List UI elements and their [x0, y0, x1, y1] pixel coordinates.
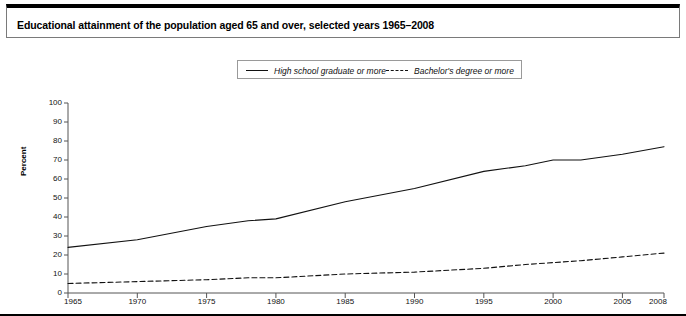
y-tick-label: 100	[40, 98, 62, 107]
y-tick-label: 60	[40, 174, 62, 183]
y-tick-label: 0	[40, 288, 62, 297]
x-tick-label: 2005	[614, 297, 632, 306]
x-tick-label: 2000	[544, 297, 562, 306]
y-axis-label: Percent	[19, 147, 28, 176]
x-tick-label: 1980	[267, 297, 285, 306]
y-tick-label: 40	[40, 212, 62, 221]
y-tick-label: 70	[40, 155, 62, 164]
y-tick-label: 20	[40, 250, 62, 259]
y-tick-label: 10	[40, 269, 62, 278]
x-tick-label: 1975	[198, 297, 216, 306]
x-tick-label: 2008	[649, 297, 667, 306]
plot-area: Percent 1009080706050403020100 196519701…	[0, 0, 686, 316]
x-tick-label: 1985	[336, 297, 354, 306]
y-axis-tick-labels: 1009080706050403020100	[40, 0, 62, 316]
y-tick-label: 50	[40, 193, 62, 202]
series-line-bachelors	[68, 253, 664, 283]
x-tick-label: 1970	[128, 297, 146, 306]
chart-canvas	[0, 0, 686, 316]
y-tick-label: 30	[40, 231, 62, 240]
y-tick-label: 80	[40, 136, 62, 145]
x-tick-label: 1990	[406, 297, 424, 306]
figure-container: Educational attainment of the population…	[0, 0, 686, 316]
x-tick-label: 1995	[475, 297, 493, 306]
y-tick-label: 90	[40, 117, 62, 126]
x-tick-label: 1965	[64, 297, 82, 306]
series-line-high-school	[68, 147, 664, 248]
